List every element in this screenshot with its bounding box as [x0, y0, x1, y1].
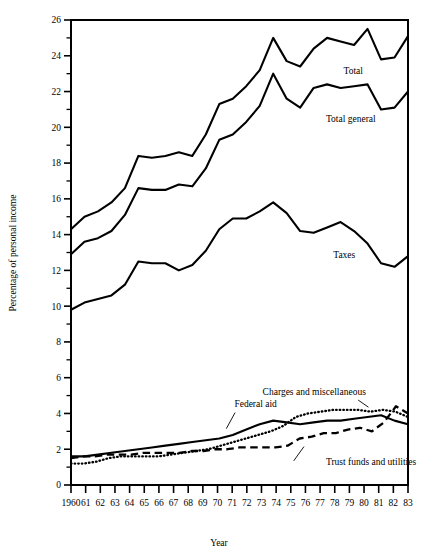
y-tick-label: 6 [56, 373, 61, 383]
plot-frame [71, 20, 408, 485]
y-tick-label: 2 [56, 445, 61, 455]
line-chart: 02468101214161820222426 1960616263646566… [0, 0, 422, 557]
y-tick-label: 24 [52, 51, 62, 61]
y-tick-label: 14 [52, 230, 62, 240]
y-axis-tick-labels: 02468101214161820222426 [52, 15, 62, 490]
leader-line [358, 400, 368, 407]
series-label-total: Total [344, 66, 364, 76]
y-tick-label: 8 [56, 337, 61, 347]
series-label-charges-and-miscellaneous: Charges and miscellaneous [263, 387, 367, 397]
x-axis-title: Year [210, 538, 228, 548]
x-tick-label: 82 [389, 498, 399, 508]
x-tick-label: 80 [359, 498, 369, 508]
x-tick-label: 66 [154, 498, 164, 508]
x-tick-label: 70 [213, 498, 223, 508]
x-tick-label: 77 [315, 498, 325, 508]
y-tick-label: 0 [56, 480, 61, 490]
x-tick-label: 68 [183, 498, 193, 508]
y-tick-label: 16 [52, 194, 62, 204]
series-label-trust-funds-and-utilities: Trust funds and utilities [326, 457, 416, 467]
leader-line [226, 413, 235, 429]
x-tick-label: 75 [286, 498, 296, 508]
x-tick-label: 62 [96, 498, 106, 508]
x-tick-label: 61 [81, 498, 91, 508]
x-axis-tick-labels: 1960616263646566676869707172737475767778… [62, 498, 414, 508]
x-axis-ticks [71, 485, 408, 493]
y-tick-label: 26 [52, 15, 62, 25]
x-tick-label: 83 [403, 498, 413, 508]
y-axis-title: Percentage of personal income [8, 195, 18, 312]
y-tick-label: 18 [52, 158, 62, 168]
y-tick-label: 22 [52, 87, 62, 97]
series-line-federal-aid [71, 415, 408, 456]
y-axis-ticks [64, 20, 71, 485]
series-annotations: TotalTotal generalTaxesFederal aidCharge… [234, 66, 416, 468]
x-tick-label: 76 [301, 498, 311, 508]
x-tick-label: 74 [271, 498, 281, 508]
x-tick-label: 67 [169, 498, 179, 508]
x-tick-label: 64 [125, 498, 135, 508]
series-label-total-general: Total general [326, 114, 376, 124]
x-tick-label: 72 [242, 498, 252, 508]
x-tick-label: 73 [257, 498, 267, 508]
series-label-federal-aid: Federal aid [234, 399, 277, 409]
y-tick-label: 4 [56, 409, 61, 419]
x-tick-label: 78 [330, 498, 340, 508]
x-tick-label: 81 [374, 498, 384, 508]
series-label-taxes: Taxes [333, 250, 355, 260]
y-tick-label: 20 [52, 123, 62, 133]
y-tick-label: 10 [52, 302, 62, 312]
x-tick-label: 69 [198, 498, 208, 508]
x-tick-label: 63 [110, 498, 120, 508]
x-tick-label: 65 [140, 498, 150, 508]
series-line-total-general [71, 74, 408, 255]
leader-line [294, 447, 304, 461]
x-tick-label: 71 [227, 498, 237, 508]
x-tick-label: 79 [345, 498, 355, 508]
chart-container: 02468101214161820222426 1960616263646566… [0, 0, 422, 557]
y-tick-label: 12 [52, 266, 62, 276]
x-tick-label: 1960 [62, 498, 81, 508]
